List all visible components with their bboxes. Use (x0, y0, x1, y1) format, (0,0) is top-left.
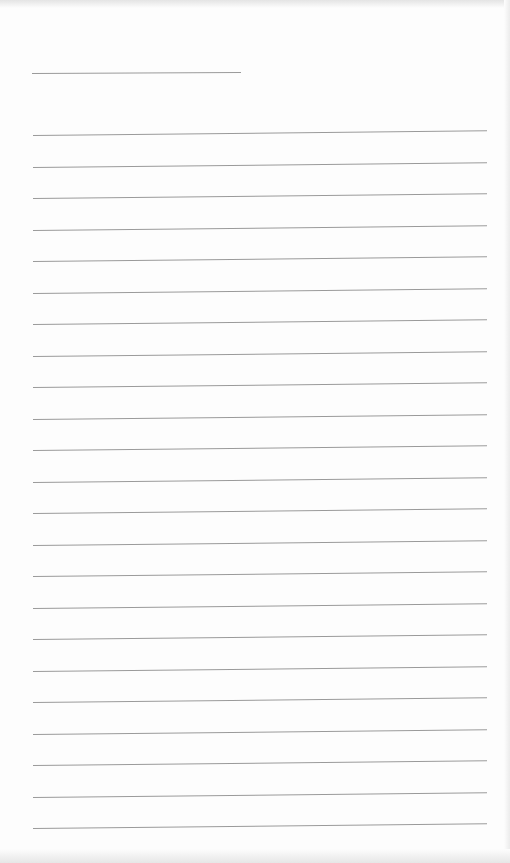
ruled-line (33, 729, 487, 735)
ruled-line (33, 130, 487, 136)
ruled-line (33, 508, 487, 514)
scan-top-edge (0, 0, 510, 8)
ruled-line (33, 319, 487, 325)
ruled-line (33, 666, 487, 672)
ruled-line (33, 760, 487, 766)
ruled-line (33, 634, 487, 640)
header-rule-line (32, 72, 241, 74)
ruled-line (33, 382, 487, 388)
ruled-line (33, 603, 487, 609)
scan-bottom-edge (0, 849, 510, 863)
ruled-line (33, 823, 487, 829)
ruled-line (33, 162, 487, 168)
ruled-line (33, 697, 487, 703)
scan-right-edge (504, 0, 510, 863)
ruled-line (33, 477, 487, 483)
ruled-line (33, 571, 487, 577)
ruled-line (33, 414, 487, 420)
ruled-line (33, 288, 487, 294)
ruled-line (33, 225, 487, 231)
ruled-line (33, 351, 487, 357)
ruled-line (33, 256, 487, 262)
ruled-line (33, 792, 487, 798)
ruled-line (33, 540, 487, 546)
ruled-line (33, 193, 487, 199)
ruled-line (33, 445, 487, 451)
